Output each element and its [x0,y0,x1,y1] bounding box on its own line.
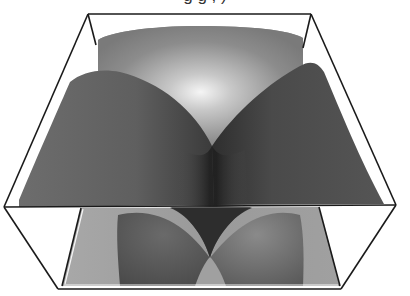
box-edge-bottom-left [4,207,58,289]
surface-plot [0,0,410,296]
box-edge-back-right-vertical [303,14,311,48]
box-edge-back-left-vertical [88,14,96,45]
center-crease [178,146,248,207]
box-edge-bottom-right [341,205,396,289]
